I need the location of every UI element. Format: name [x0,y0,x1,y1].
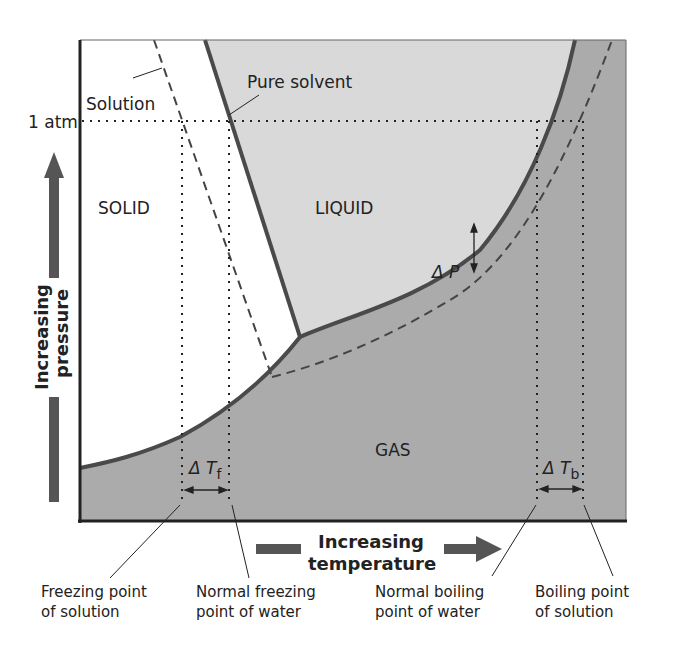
svg-text:point of water: point of water [196,603,302,621]
svg-text:Normal boiling: Normal boiling [375,583,484,601]
x-axis-label-line2: temperature [308,553,436,574]
liquid-label: LIQUID [315,198,373,218]
svg-text:point of water: point of water [375,603,481,621]
solution-label: Solution [86,94,155,114]
delta-p-label: Δ P [430,262,460,282]
svg-text:pressure: pressure [51,289,72,378]
one-atm-label: 1 atm [28,112,78,132]
svg-text:Boiling point: Boiling point [535,583,629,601]
callout-normal-freezing: Normal freezing point of water [196,583,316,621]
solid-label: SOLID [98,198,150,218]
x-axis-label-line1: Increasing [318,531,424,552]
svg-text:of solution: of solution [535,603,614,621]
callout-normal-boiling: Normal boiling point of water [375,583,484,621]
callout-boiling-solution: Boiling point of solution [535,583,629,621]
phase-diagram: 1 atm Solution Pure solvent SOLID LIQUID… [0,0,688,658]
gas-label: GAS [375,440,411,460]
pure-solvent-label: Pure solvent [247,72,352,92]
callout-freezing-solution: Freezing point of solution [41,583,147,621]
svg-text:of solution: of solution [41,603,120,621]
svg-text:Increasing: Increasing [31,284,52,390]
svg-text:Freezing point: Freezing point [41,583,147,601]
y-axis-label: Increasing pressure [31,284,72,390]
svg-text:Normal freezing: Normal freezing [196,583,316,601]
